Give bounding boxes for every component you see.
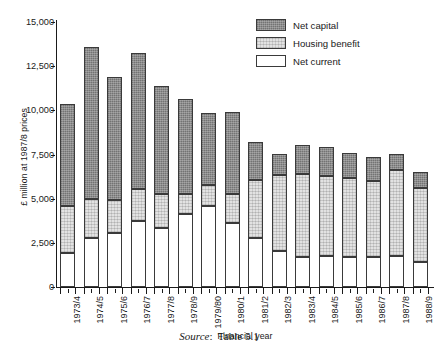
y-tick-label: 15,000 — [10, 17, 54, 27]
bar-segment — [366, 257, 381, 287]
bar-segment — [413, 262, 428, 287]
x-tick-mark — [201, 288, 202, 294]
x-tick-mark — [334, 288, 335, 294]
bar-segment — [342, 257, 357, 287]
x-tick-label: 1987/8 — [401, 296, 411, 324]
bar-segment — [272, 175, 287, 251]
x-tick-label: 1980/1 — [236, 296, 246, 324]
source-caption: Source: Table 5.1 — [0, 330, 438, 342]
source-label: Source — [179, 330, 209, 342]
y-tick-mark — [51, 243, 55, 244]
bar-group — [154, 22, 169, 287]
bar-segment — [248, 180, 263, 238]
x-tick-mark — [122, 288, 123, 294]
bar-group — [225, 22, 240, 287]
x-tick-mark — [389, 288, 390, 294]
x-tick-mark-center — [209, 289, 210, 293]
bar-segment — [60, 104, 75, 206]
bar-segment — [154, 228, 169, 287]
bar-segment — [201, 185, 216, 205]
bar-segment — [131, 53, 146, 189]
x-tick-mark-center — [373, 289, 374, 293]
bar-segment — [60, 253, 75, 287]
x-tick-mark — [99, 288, 100, 294]
x-tick-mark-center — [256, 289, 257, 293]
x-tick-mark-center — [68, 289, 69, 293]
chart-legend: Net capitalHousing benefitNet current — [256, 17, 426, 71]
bar-segment — [60, 206, 75, 254]
bar-segment — [342, 153, 357, 179]
x-tick-mark — [404, 288, 405, 294]
bar-segment — [389, 170, 404, 256]
x-tick-label: 1978/9 — [189, 296, 199, 324]
bar-segment — [201, 113, 216, 185]
y-tick-label: 2,500 — [10, 238, 54, 248]
x-tick-label: 1977/8 — [166, 296, 176, 324]
bar-segment — [413, 188, 428, 262]
x-tick-mark-center — [397, 289, 398, 293]
x-axis-tick-marks — [56, 288, 434, 295]
bar-segment — [107, 200, 122, 234]
x-tick-mark — [178, 288, 179, 294]
x-tick-mark — [295, 288, 296, 294]
x-tick-label: 1979/80 — [213, 296, 223, 329]
bar-group — [178, 22, 193, 287]
legend-swatch — [256, 37, 286, 49]
x-tick-mark — [357, 288, 358, 294]
bar-segment — [84, 199, 99, 238]
x-tick-mark — [225, 288, 226, 294]
bar-segment — [154, 194, 169, 228]
x-tick-mark — [319, 288, 320, 294]
x-tick-label: 1986/7 — [377, 296, 387, 324]
bar-segment — [131, 221, 146, 287]
bar-segment — [178, 99, 193, 194]
bar-segment — [225, 112, 240, 194]
x-tick-mark — [154, 288, 155, 294]
x-tick-mark-center — [279, 289, 280, 293]
bar-segment — [131, 189, 146, 221]
bar-segment — [389, 256, 404, 287]
x-tick-label: 1981/2 — [260, 296, 270, 324]
bar-segment — [295, 174, 310, 257]
x-tick-mark — [84, 288, 85, 294]
legend-entry: Housing benefit — [256, 35, 426, 51]
x-tick-mark — [263, 288, 264, 294]
legend-label: Net current — [293, 56, 340, 67]
bar-segment — [366, 157, 381, 181]
bar-segment — [248, 238, 263, 287]
bar-segment — [366, 181, 381, 257]
x-tick-mark-center — [138, 289, 139, 293]
source-separator: : — [209, 330, 212, 342]
bar-segment — [178, 194, 193, 213]
x-tick-mark-center — [303, 289, 304, 293]
x-tick-label: 1988/9 — [424, 296, 434, 324]
x-tick-mark — [272, 288, 273, 294]
x-tick-mark-center — [162, 289, 163, 293]
bar-group — [84, 22, 99, 287]
bar-segment — [319, 147, 334, 176]
y-tick-mark — [51, 155, 55, 156]
bar-segment — [225, 194, 240, 222]
bar-segment — [295, 257, 310, 287]
x-tick-mark-center — [350, 289, 351, 293]
bar-group — [131, 22, 146, 287]
x-tick-label: 1974/5 — [95, 296, 105, 324]
y-tick-mark — [51, 199, 55, 200]
x-tick-label: 1982/3 — [283, 296, 293, 324]
x-tick-mark — [413, 288, 414, 294]
bar-segment — [225, 223, 240, 287]
bar-group — [60, 22, 75, 287]
bar-group — [107, 22, 122, 287]
y-tick-label: 7,500 — [10, 150, 54, 160]
y-tick-label: 10,000 — [10, 105, 54, 115]
x-tick-mark-center — [91, 289, 92, 293]
x-tick-mark-center — [115, 289, 116, 293]
x-tick-label: 1975/6 — [119, 296, 129, 324]
x-tick-mark — [193, 288, 194, 294]
x-tick-label: 1983/4 — [307, 296, 317, 324]
x-tick-mark — [169, 288, 170, 294]
y-tick-label: 12,500 — [10, 61, 54, 71]
x-tick-label: 1976/7 — [142, 296, 152, 324]
bar-segment — [319, 176, 334, 256]
bar-segment — [248, 142, 263, 180]
